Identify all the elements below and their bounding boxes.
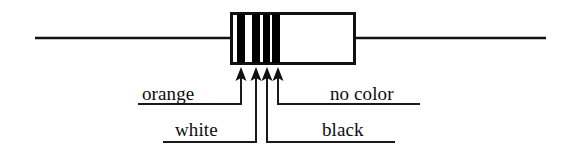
color-band-2-white [252, 14, 260, 63]
resistor-diagram: orange no color white black [0, 0, 574, 156]
band-label-black: black [322, 120, 364, 139]
band-label-orange: orange [142, 84, 194, 103]
band-label-no-color: no color [330, 84, 394, 103]
color-band-1-orange [237, 14, 245, 63]
color-band-4-no-color [272, 14, 280, 63]
band-label-white: white [175, 120, 218, 139]
diagram-canvas [0, 0, 574, 156]
resistor-body [232, 14, 355, 64]
color-band-3-black [263, 14, 270, 63]
